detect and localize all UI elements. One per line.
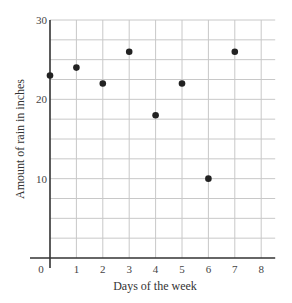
x-tick-label: 4 [153, 263, 159, 275]
data-point [47, 72, 54, 79]
x-tick-label: 2 [100, 263, 106, 275]
x-tick-label: 6 [206, 263, 212, 275]
x-tick-label: 7 [232, 263, 238, 275]
x-axis-label: Days of the week [113, 279, 197, 293]
x-tick-label: 1 [74, 263, 80, 275]
data-points [47, 48, 238, 182]
axes [30, 20, 275, 268]
data-point [232, 48, 239, 55]
x-tick-label: 0 [38, 263, 44, 275]
y-tick-label: 10 [36, 173, 48, 185]
data-point [100, 80, 107, 87]
data-point [179, 80, 186, 87]
x-tick-label: 8 [258, 263, 264, 275]
x-tick-label: 5 [179, 263, 185, 275]
x-tick-label: 3 [126, 263, 132, 275]
x-tick-labels: 012345678 [38, 263, 264, 275]
grid-lines [50, 20, 275, 258]
y-tick-labels: 102030 [36, 14, 48, 185]
data-point [152, 112, 159, 119]
data-point [73, 64, 80, 71]
scatter-chart: 012345678 102030 Days of the week Amount… [0, 0, 292, 303]
y-axis-label: Amount of rain in inches [13, 79, 27, 199]
y-tick-label: 20 [36, 93, 48, 105]
data-point [126, 48, 133, 55]
y-tick-label: 30 [36, 14, 48, 26]
data-point [205, 175, 212, 182]
